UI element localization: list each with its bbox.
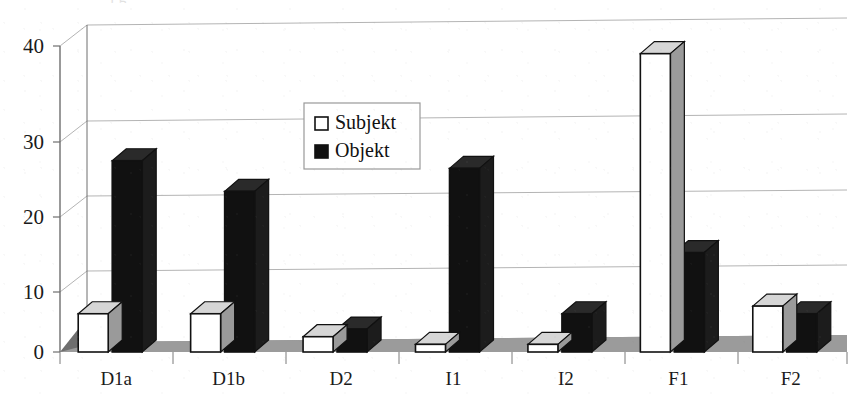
bar-F2-subjekt [753,294,797,352]
y-tick-labels: 0 10 20 30 40 [23,34,44,364]
x-axis-label-D2: D2 [329,368,352,389]
depth-riser-20 [60,196,87,217]
x-axis-labels: D1aD1bD2I1I2F1F2 [100,368,800,389]
legend: Subjekt Objekt [304,103,420,169]
legend-label-subjekt: Subjekt [335,111,397,134]
bar-I1-subjekt-front-face [416,344,446,352]
legend-swatch-subjekt [315,117,328,130]
bar-I2-objekt [562,302,606,352]
x-axis-label-F1: F1 [668,368,688,389]
chart-figure: j g [0,0,854,398]
bar-F1-objekt-side-face [704,241,718,352]
bar-F1-subjekt-side-face [670,42,684,352]
bar-I1-objekt-side-face [480,156,494,352]
x-axis-ticks [60,352,847,364]
bar-D1b-subjekt [191,302,235,352]
depth-riser-30 [60,121,87,142]
x-axis-label-D1b: D1b [212,368,245,389]
y-axis [60,25,87,352]
y-axis-ticks [53,46,60,352]
legend-swatch-objekt [315,145,328,158]
bar-I1-objekt [450,156,494,352]
bar-D1a-subjekt [78,302,122,352]
y-tick-label-30: 30 [23,130,44,154]
bar-I1-objekt-front-face [450,168,480,352]
y-tick-label-20: 20 [23,205,44,229]
bar-D1b-subjekt-front-face [191,314,221,352]
y-tick-label-10: 10 [23,280,44,304]
depth-riser-10 [60,271,87,292]
bar-F2-subjekt-front-face [753,306,783,352]
legend-label-objekt: Objekt [335,139,390,162]
bar-I2-subjekt-front-face [528,344,558,352]
bar-D2-subjekt-front-face [303,337,333,352]
x-axis-label-I2: I2 [558,368,574,389]
bar-chart-canvas: 0 10 20 30 40 D1aD1bD2I1I2F1F2 Subjekt [0,0,854,398]
bar-D1a-objekt-side-face [142,149,156,352]
bar-F1-subjekt [640,42,684,352]
bar-F1-subjekt-front-face [640,54,670,352]
bar-D1a-subjekt-front-face [78,314,108,352]
y-tick-label-0: 0 [34,340,45,364]
bar-D1b-objekt-side-face [255,179,269,352]
depth-riser-40 [60,25,87,46]
x-axis-label-I1: I1 [446,368,462,389]
y-tick-label-40: 40 [23,34,44,58]
x-axis-label-F2: F2 [781,368,801,389]
x-axis-label-D1a: D1a [100,368,132,389]
